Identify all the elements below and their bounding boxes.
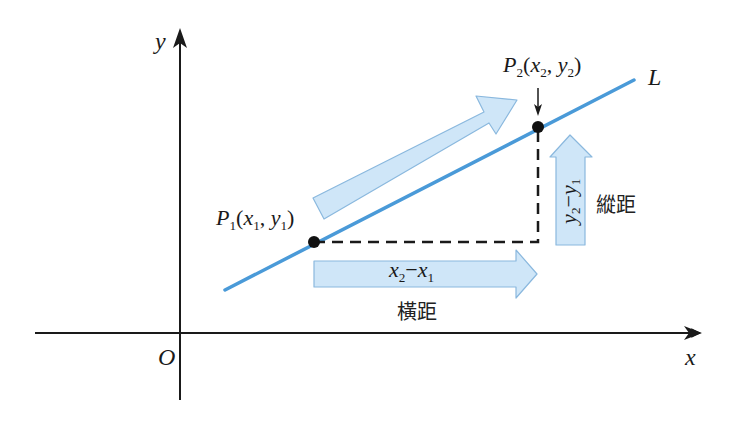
rise-caption: 縱距	[596, 189, 636, 218]
point-p1-label: P1(x1, y1)	[216, 205, 294, 234]
point-p2-label: P2(x2, y2)	[503, 52, 581, 81]
rise-expression: y2−y1	[556, 165, 585, 237]
x-axis-label: x	[685, 344, 696, 371]
point-p2-dot	[532, 121, 544, 133]
line-label: L	[648, 64, 661, 91]
y-axis-label: y	[155, 28, 166, 55]
origin-label: O	[158, 344, 175, 371]
point-p1-dot	[308, 236, 320, 248]
slope-diagram: y x O L P1(x1, y1) P2(x2, y2) x2−x1 橫距 y…	[0, 0, 731, 430]
run-caption: 橫距	[397, 296, 437, 325]
run-expression: x2−x1	[389, 257, 434, 286]
